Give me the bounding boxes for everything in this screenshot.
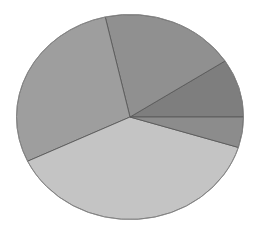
pie-chart-canvas <box>0 0 256 236</box>
pie-slices <box>17 15 244 220</box>
pie-chart <box>0 0 256 236</box>
